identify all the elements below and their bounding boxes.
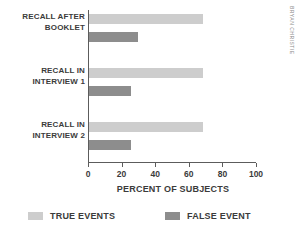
category-label-line-2: BOOKLET	[0, 23, 85, 34]
plot-area: RECALL AFTER BOOKLET RECALL IN INTERVIEW…	[0, 4, 268, 164]
x-axis-tick-label-0: 0	[73, 169, 103, 179]
x-axis-tick-label-1: 20	[107, 169, 137, 179]
x-axis-line	[88, 162, 256, 163]
category-label-line-1: RECALL IN	[41, 120, 85, 129]
category-axis-labels: RECALL AFTER BOOKLET RECALL IN INTERVIEW…	[0, 4, 85, 159]
x-axis-tick-2	[155, 163, 156, 167]
bar-true-events-2	[89, 122, 203, 132]
illustrator-credit-text: BRYAN CHRISTIE	[289, 6, 295, 55]
bar-chart-figure: RECALL AFTER BOOKLET RECALL IN INTERVIEW…	[0, 0, 298, 230]
x-axis-tick-3	[189, 163, 190, 167]
bar-false-event-0	[89, 32, 138, 42]
legend-label-true-events: TRUE EVENTS	[50, 211, 115, 221]
bar-true-events-0	[89, 14, 203, 24]
x-axis-title: PERCENT OF SUBJECTS	[88, 184, 258, 194]
legend-swatch-true-events	[28, 212, 43, 220]
category-label-line-2: INTERVIEW 1	[0, 77, 85, 88]
category-label-line-2: INTERVIEW 2	[0, 131, 85, 142]
x-axis-tick-1	[122, 163, 123, 167]
illustrator-credit: BRYAN CHRISTIE	[285, 6, 297, 76]
legend-swatch-false-event	[165, 212, 180, 220]
x-axis-tick-label-5: 100	[241, 169, 271, 179]
x-axis-tick-0	[88, 163, 89, 167]
bar-false-event-2	[89, 140, 131, 150]
x-axis-tick-label-3: 60	[174, 169, 204, 179]
legend-item-true-events: TRUE EVENTS	[28, 211, 115, 221]
category-label-recall-in-interview-1: RECALL IN INTERVIEW 1	[0, 66, 85, 87]
legend-label-false-event: FALSE EVENT	[187, 211, 251, 221]
x-axis-tick-4	[222, 163, 223, 167]
category-label-recall-after-booklet: RECALL AFTER BOOKLET	[0, 12, 85, 33]
category-label-recall-in-interview-2: RECALL IN INTERVIEW 2	[0, 120, 85, 141]
bar-true-events-1	[89, 68, 203, 78]
legend-item-false-event: FALSE EVENT	[165, 211, 251, 221]
x-axis-tick-label-4: 80	[207, 169, 237, 179]
category-label-line-1: RECALL IN	[41, 66, 85, 75]
bar-series-container	[89, 4, 257, 162]
x-axis-tick-label-2: 40	[140, 169, 170, 179]
category-label-line-1: RECALL AFTER	[22, 12, 85, 21]
x-axis-tick-5	[256, 163, 257, 167]
chart-legend: TRUE EVENTS FALSE EVENT	[28, 211, 278, 225]
bar-false-event-1	[89, 86, 131, 96]
